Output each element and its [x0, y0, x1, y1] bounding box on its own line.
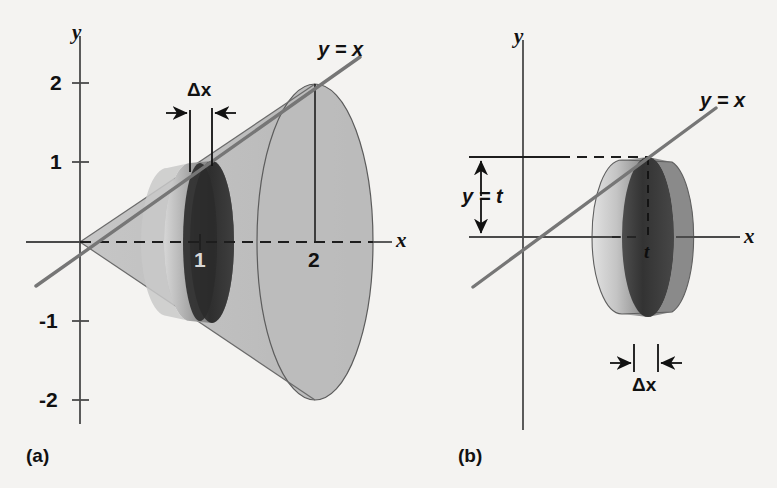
dx-label-b: Δx: [632, 375, 656, 394]
x-axis-label-a: x: [396, 230, 407, 251]
y-axis-label-a: y: [72, 22, 81, 43]
x-tick-label-2-a: 2: [308, 249, 320, 270]
x-tick-label-1-a: 1: [194, 249, 206, 270]
y-tick-label-2-a: 2: [50, 72, 62, 93]
dx-label-a: Δx: [187, 80, 211, 99]
y-tick-label-neg1-a: -1: [39, 310, 58, 331]
y-axis-label-b: y: [514, 26, 523, 47]
figure-canvas: y x 2 1 -1 -2 1 2 y = x Δx (a) y x y = x…: [0, 0, 777, 488]
panel-caption-a: (a): [26, 446, 49, 465]
x-axis-label-b: x: [744, 226, 755, 247]
height-label-b: y = t: [462, 186, 503, 206]
line-label-a: y = x: [318, 39, 363, 59]
line-label-b: y = x: [700, 90, 745, 110]
radius-label-b: t: [644, 242, 649, 261]
y-tick-label-1-a: 1: [50, 151, 62, 172]
y-tick-label-neg2-a: -2: [39, 389, 58, 410]
panel-caption-b: (b): [458, 446, 482, 465]
figure-graphics: [0, 0, 777, 488]
